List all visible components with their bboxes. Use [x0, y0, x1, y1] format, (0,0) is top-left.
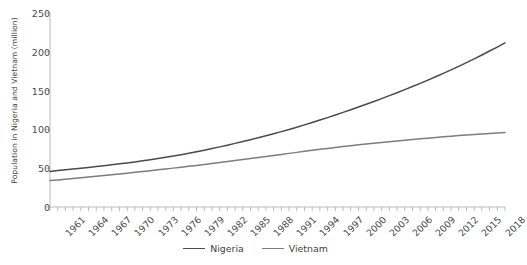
x-axis-tick-label: 1985 — [248, 214, 273, 239]
x-axis-tick-label: 2003 — [387, 214, 412, 239]
x-axis-tick-label: 1976 — [179, 214, 204, 239]
x-axis-tick-label: 1994 — [317, 214, 342, 239]
legend-line-swatch-icon — [262, 248, 284, 249]
x-axis-tick-label: 2012 — [456, 214, 481, 239]
x-axis-tick-label: 1982 — [225, 214, 250, 239]
x-axis-tick-label: 1979 — [202, 214, 227, 239]
x-axis-tick-label: 2018 — [502, 214, 527, 239]
legend-label: Vietnam — [289, 243, 328, 254]
chart-legend: NigeriaVietnam — [0, 243, 511, 254]
legend-label: Nigeria — [210, 243, 244, 254]
x-axis-tick-label: 1967 — [109, 214, 134, 239]
x-axis-tick-label: 2015 — [479, 214, 504, 239]
x-axis-tick-label: 1991 — [294, 214, 319, 239]
legend-item-vietnam[interactable]: Vietnam — [262, 243, 328, 254]
legend-line-swatch-icon — [183, 248, 205, 249]
x-axis-tick-label: 1973 — [155, 214, 180, 239]
x-axis-tick-label: 2000 — [364, 214, 389, 239]
x-axis-tick-label: 1961 — [63, 214, 88, 239]
x-axis-tick-label: 1964 — [86, 214, 111, 239]
x-axis-tick-label: 1970 — [132, 214, 157, 239]
legend-item-nigeria[interactable]: Nigeria — [183, 243, 244, 254]
x-axis-tick-label: 1997 — [341, 214, 366, 239]
x-axis-tick-label: 2006 — [410, 214, 435, 239]
x-axis-tick-label: 2009 — [433, 214, 458, 239]
x-axis-tick-label: 1988 — [271, 214, 296, 239]
